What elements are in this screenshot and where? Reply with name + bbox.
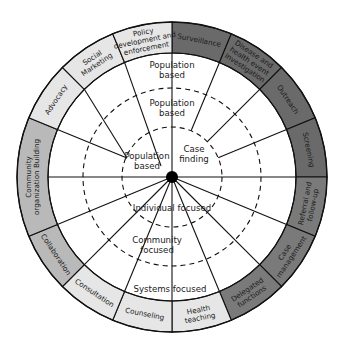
- inner-label-community-focused: Communityfocused: [132, 235, 182, 255]
- inner-label-systems-focused: Systems focused: [134, 284, 207, 294]
- spoke-line: [218, 130, 286, 158]
- spoke-line: [57, 130, 127, 158]
- inner-label-population-based-inner: Populationbased: [124, 151, 169, 171]
- spoke-line: [172, 177, 260, 265]
- inner-label-line: based: [159, 108, 185, 118]
- inner-label-line: based: [159, 70, 185, 80]
- center-hub: [166, 171, 178, 183]
- inner-label-line: Case: [183, 144, 204, 154]
- intervention-wheel: SurveillanceDisease andhealth eventinves…: [0, 0, 338, 352]
- segment-label-line: organization Building: [32, 139, 41, 215]
- spoke-line: [207, 89, 259, 141]
- inner-label-population-based-middle: Populationbased: [149, 98, 194, 118]
- inner-label-line: focused: [140, 245, 174, 255]
- inner-label-line: based: [134, 161, 160, 171]
- inner-label-line: Population: [124, 151, 169, 161]
- spoke-line: [84, 89, 127, 158]
- inner-label-line: finding: [179, 154, 209, 164]
- inner-label-line: Community: [132, 235, 182, 245]
- inner-label-individual-focused: Individual focused: [133, 203, 211, 213]
- inner-label-line: Population: [149, 60, 194, 70]
- inner-label-case-finding: Casefinding: [179, 144, 209, 164]
- spoke-line: [191, 62, 219, 130]
- inner-label-line: Systems focused: [134, 284, 207, 294]
- inner-label-line: Individual focused: [133, 203, 211, 213]
- inner-label-population-based-outer: Populationbased: [149, 60, 194, 80]
- inner-label-line: Population: [149, 98, 194, 108]
